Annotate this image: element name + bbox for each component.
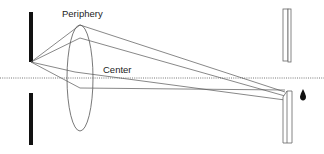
aperture-top <box>29 12 33 62</box>
periphery-rays <box>31 25 285 96</box>
aperture-bottom <box>29 93 33 145</box>
center-rays <box>31 62 285 100</box>
upper-plate <box>283 9 291 62</box>
optics-diagram <box>0 0 324 154</box>
lower-plate <box>283 91 292 143</box>
periphery-label: Periphery <box>62 9 103 19</box>
center-label: Center <box>103 65 132 75</box>
droplet-icon <box>300 89 306 101</box>
